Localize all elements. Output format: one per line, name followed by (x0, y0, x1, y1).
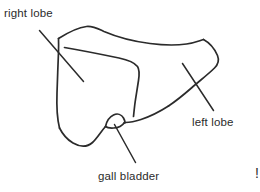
right-lobe-leader-line (40, 31, 84, 82)
left-lobe-leader-line (183, 64, 214, 111)
liver-outline-lower-left (60, 127, 106, 147)
label-right-lobe: right lobe (4, 7, 53, 19)
liver-outline-right-flank (169, 40, 219, 107)
label-gall-bladder: gall bladder (98, 170, 159, 182)
diagram-canvas: right lobe left lobe gall bladder ! (0, 0, 260, 192)
gall-bladder-leader-line (115, 125, 136, 163)
liver-outline-top-and-right (59, 26, 204, 45)
liver-diagram (0, 0, 260, 192)
lobar-fissure-line (65, 48, 140, 117)
edge-exclamation-mark: ! (255, 166, 259, 180)
label-left-lobe: left lobe (192, 116, 234, 128)
liver-outline-lower-right (125, 106, 169, 123)
